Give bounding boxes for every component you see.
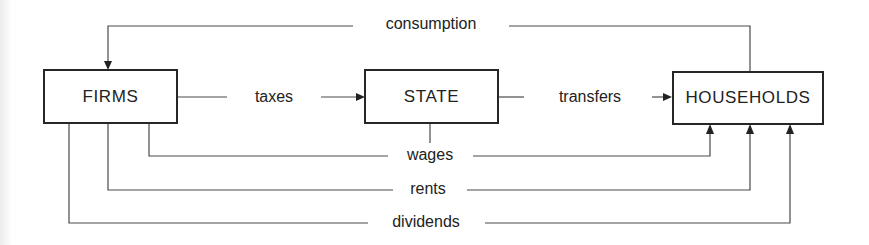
consumption-label: consumption	[386, 16, 477, 32]
dividends-flow	[69, 123, 794, 223]
households-label: HOUSEHOLDS	[685, 88, 810, 108]
households-box: HOUSEHOLDS	[672, 71, 824, 125]
transfers-label: transfers	[559, 89, 621, 105]
firms-label: FIRMS	[83, 87, 139, 107]
arrow-dividends-into-households-icon	[786, 124, 794, 134]
taxes-label: taxes	[255, 89, 293, 105]
state-label: STATE	[404, 87, 459, 107]
arrow-rents-into-households-icon	[746, 124, 754, 134]
state-box: STATE	[364, 69, 499, 124]
firms-box: FIRMS	[43, 69, 178, 124]
wages-label: wages	[407, 147, 453, 163]
rents-label: rents	[410, 181, 446, 197]
dividends-label: dividends	[392, 214, 460, 230]
arrow-wages-into-households-icon	[706, 124, 714, 134]
arrow-into-households-left-icon	[663, 93, 672, 101]
consumption-flow	[104, 26, 750, 72]
